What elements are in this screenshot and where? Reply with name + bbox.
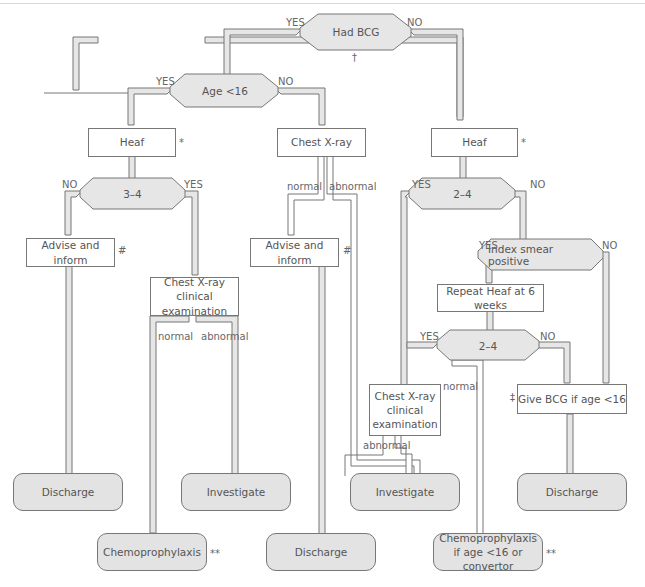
left-normal-label: normal [158,331,193,342]
index-smear-yes: YES [479,240,498,251]
had-bcg-yes: YES [286,17,305,28]
box-heaf-left: Heaf [88,128,176,157]
box-heaf-right: Heaf [431,128,518,157]
right-abnormal-label: abnormal [363,440,411,451]
box-advise-mid: Advise and inform [250,238,339,267]
had-bcg-label: Had BCG [311,16,401,48]
left-abnormal-label: abnormal [201,331,249,342]
heaf-3-4-label: 3–4 [90,179,175,209]
outcome-discharge-2: Discharge [517,473,627,511]
advise-mid-note: # [343,245,351,256]
box-advise-left: Advise and inform [26,238,115,267]
box-chest-clinical-left: Chest X-ray clinical examination [150,277,239,316]
heaf-3-4-yes: YES [184,179,203,190]
heaf-2-4-yes: YES [412,179,431,190]
outcome-investigate-2: Investigate [350,473,460,511]
outcome-chemo-conditional: Chemoprophylaxis if age <16 or convertor [433,533,543,571]
chemoprophylaxis-note: ** [210,548,220,559]
mid-abnormal-label: abnormal [329,181,377,192]
box-repeat-heaf: Repeat Heaf at 6 weeks [437,284,544,312]
chemo-conditional-note: ** [546,548,556,559]
right-normal-label: normal [443,381,478,392]
heaf-2-4-no: NO [530,179,545,190]
box-give-bcg: Give BCG if age <16 [517,384,627,414]
give-bcg-note: ‡ [510,392,515,403]
outcome-discharge-3: Discharge [266,533,376,571]
had-bcg-note: † [352,52,357,63]
outcome-investigate-1: Investigate [181,473,291,511]
index-smear-no: NO [602,240,617,251]
age-lt16-yes: YES [156,76,175,87]
index-smear-label: Index smear positive [488,240,594,270]
advise-left-note: # [118,245,126,256]
box-chest-clinical-right: Chest X-ray clinical examination [369,384,441,436]
outcome-chemoprophylaxis: Chemoprophylaxis [97,533,207,571]
outcome-discharge-1: Discharge [13,473,123,511]
repeat-2-4-no: NO [540,331,555,342]
heaf-3-4-no: NO [62,179,77,190]
heaf-2-4-label: 2–4 [420,179,505,209]
age-lt16-label: Age <16 [180,75,270,106]
box-chest-xray-mid: Chest X-ray [277,128,366,157]
had-bcg-no: NO [407,17,422,28]
mid-normal-label: normal [287,181,322,192]
age-lt16-no: NO [278,76,293,87]
repeat-2-4-label: 2–4 [447,331,529,360]
heaf-left-note: * [179,137,184,148]
heaf-right-note: * [521,137,526,148]
repeat-2-4-yes: YES [420,331,439,342]
